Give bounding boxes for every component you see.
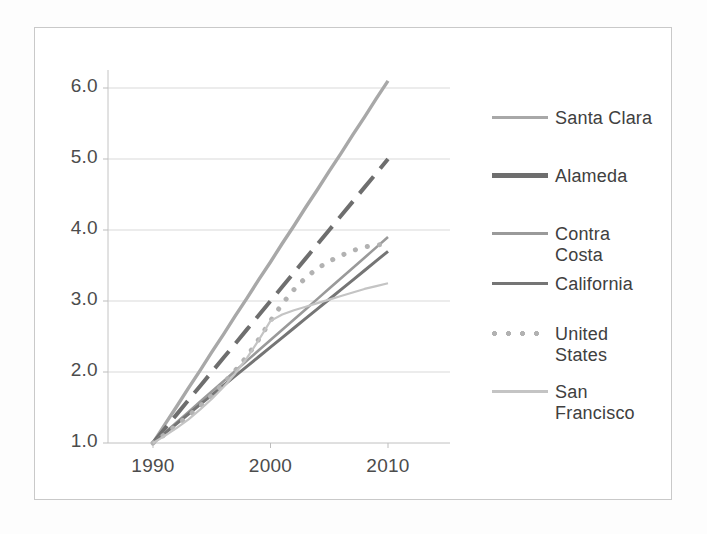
legend-item-alameda[interactable]: Alameda [492, 166, 627, 187]
legend-item-california[interactable]: California [492, 274, 633, 295]
legend-item-label: Santa Clara [555, 108, 652, 129]
legend-item-san-francisco[interactable]: San Francisco [492, 382, 635, 424]
legend-item-label: San Francisco [555, 382, 635, 424]
legend-swatch-icon [492, 166, 548, 186]
line-chart-plot [0, 0, 707, 534]
legend-item-label: Alameda [555, 166, 627, 187]
legend-swatch-icon [492, 108, 548, 128]
series-line-contra-costa [153, 237, 388, 443]
legend-item-santa-clara[interactable]: Santa Clara [492, 108, 652, 129]
y-axis-tick-label: 6.0 [38, 75, 98, 97]
x-axis-tick-label: 1990 [108, 455, 198, 477]
legend-item-label: United States [555, 324, 608, 366]
legend-item-united-states[interactable]: United States [492, 324, 608, 366]
series-line-california [153, 251, 388, 443]
legend-item-label: California [555, 274, 633, 295]
legend-swatch-icon [492, 224, 548, 244]
legend-swatch-icon [492, 324, 548, 344]
legend-item-label: Contra Costa [555, 224, 610, 266]
y-axis-tick-label: 4.0 [38, 217, 98, 239]
y-axis-tick-label: 2.0 [38, 359, 98, 381]
legend-swatch-icon [492, 274, 548, 294]
y-axis-tick-label: 3.0 [38, 288, 98, 310]
chart-root: 6.05.04.03.02.01.0 199020002010 Santa Cl… [0, 0, 707, 534]
y-axis-tick-label: 1.0 [38, 430, 98, 452]
series-line-san-francisco [153, 283, 388, 443]
y-axis-tick-label: 5.0 [38, 146, 98, 168]
series-line-santa-clara [153, 81, 388, 443]
x-axis-tick-label: 2000 [226, 455, 316, 477]
x-axis-tick-label: 2010 [343, 455, 433, 477]
legend-swatch-icon [492, 382, 548, 402]
legend-item-contra-costa[interactable]: Contra Costa [492, 224, 610, 266]
